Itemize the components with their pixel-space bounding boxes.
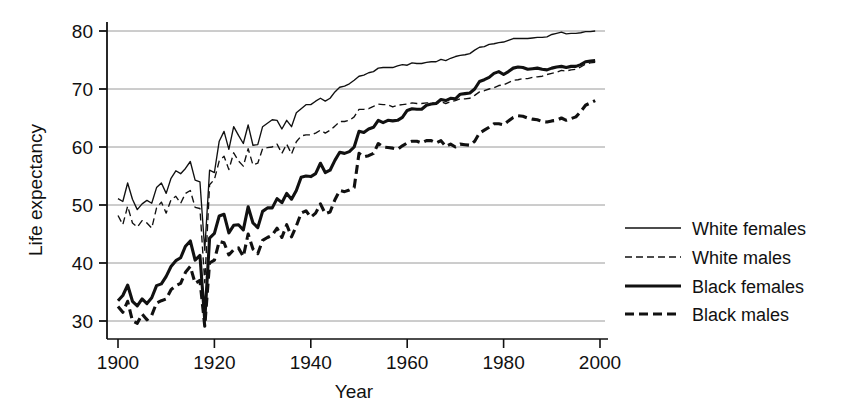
x-tick-labels: 190019201940196019802000 — [97, 352, 621, 373]
y-tick-label-40: 40 — [72, 253, 93, 274]
legend-label: Black males — [692, 305, 789, 325]
life-expectancy-chart: 190019201940196019802000 304050607080 Ye… — [0, 0, 843, 413]
x-axis-label: Year — [335, 381, 374, 402]
x-tick-label-1940: 1940 — [290, 352, 332, 373]
legend-item-black-females: Black females — [625, 277, 804, 297]
legend-label: Black females — [692, 277, 804, 297]
y-tick-label-30: 30 — [72, 311, 93, 332]
y-tick-label-50: 50 — [72, 195, 93, 216]
y-tick-label-80: 80 — [72, 21, 93, 42]
gridline-group — [107, 31, 605, 321]
y-tick-group — [99, 31, 107, 321]
legend-item-black-males: Black males — [625, 305, 789, 325]
legend-item-white-males: White males — [625, 248, 791, 268]
y-tick-label-70: 70 — [72, 79, 93, 100]
chart-canvas: 190019201940196019802000 304050607080 Ye… — [0, 0, 843, 413]
x-tick-label-2000: 2000 — [579, 352, 621, 373]
x-tick-label-1920: 1920 — [193, 352, 235, 373]
y-axis-label: Life expectancy — [25, 123, 46, 256]
x-tick-label-1900: 1900 — [97, 352, 139, 373]
y-tick-labels: 304050607080 — [72, 21, 93, 332]
x-tick-label-1980: 1980 — [482, 352, 524, 373]
y-tick-label-60: 60 — [72, 137, 93, 158]
legend-label: White males — [692, 248, 791, 268]
legend-label: White females — [692, 219, 806, 239]
legend: White femalesWhite malesBlack femalesBla… — [625, 219, 806, 325]
x-tick-label-1960: 1960 — [386, 352, 428, 373]
data-series-group — [118, 31, 595, 326]
legend-item-white-females: White females — [625, 219, 806, 239]
x-tick-group — [118, 339, 600, 348]
